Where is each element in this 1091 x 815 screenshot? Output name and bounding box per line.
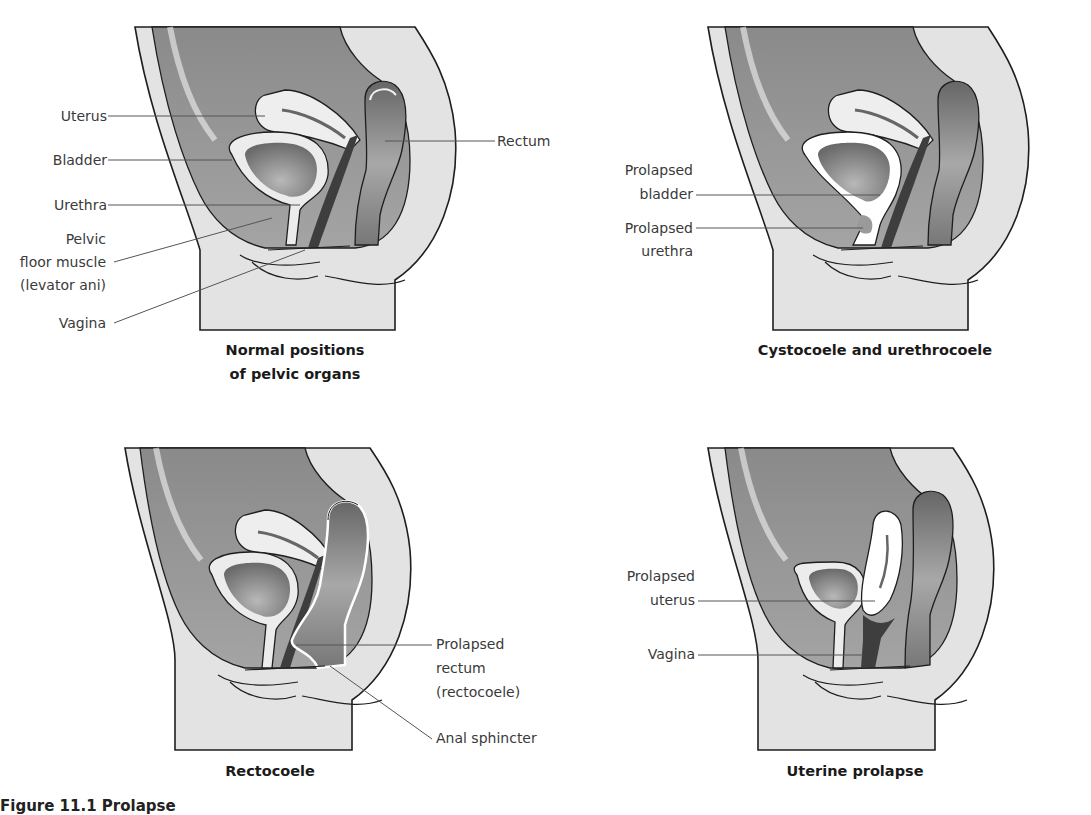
panel-uterine-prolapse: Prolapsed uterus Vagina Uterine prolapse xyxy=(545,400,1091,808)
title-normal: Normal positions of pelvic organs xyxy=(215,338,375,386)
label-prolapsed-rectum-1: Prolapsed xyxy=(436,635,504,653)
label-prolapsed-urethra-1: Prolapsed xyxy=(625,219,693,237)
label-prolapsed-bladder-2: bladder xyxy=(640,185,694,203)
label-prolapsed-rectum-3: (rectocoele) xyxy=(436,683,520,701)
label-urethra: Urethra xyxy=(54,196,107,214)
panel-rectocoele: Prolapsed rectum (rectocoele) Anal sphin… xyxy=(0,400,620,808)
title-cystocoele: Cystocoele and urethrocoele xyxy=(745,338,1005,362)
label-prolapsed-bladder-1: Prolapsed xyxy=(625,161,693,179)
label-bladder: Bladder xyxy=(53,151,107,169)
panel-normal: Uterus Bladder Urethra Pelvic floor musc… xyxy=(0,0,545,400)
pelvis-uterine-prolapse-illustration xyxy=(545,400,1091,808)
label-rectum: Rectum xyxy=(497,132,550,150)
label-prolapsed-uterus-1: Prolapsed xyxy=(627,567,695,585)
label-prolapsed-rectum-2: rectum xyxy=(436,659,486,677)
label-anal-sphincter: Anal sphincter xyxy=(436,729,537,747)
figure-caption: Figure 11.1 Prolapse xyxy=(0,797,176,815)
label-uterus: Uterus xyxy=(61,107,107,125)
label-pelvic-floor-3: (levator ani) xyxy=(20,276,106,294)
label-vagina-uterine: Vagina xyxy=(648,645,695,663)
title-rectocoele: Rectocoele xyxy=(190,759,350,783)
panel-cystocoele: Prolapsed bladder Prolapsed urethra Cyst… xyxy=(545,0,1091,400)
label-vagina: Vagina xyxy=(59,314,106,332)
label-prolapsed-uterus-2: uterus xyxy=(650,591,695,609)
title-uterine-prolapse: Uterine prolapse xyxy=(770,759,940,783)
label-prolapsed-urethra-2: urethra xyxy=(641,242,693,260)
label-pelvic-floor-2: floor muscle xyxy=(20,253,106,271)
label-pelvic-floor-1: Pelvic xyxy=(66,230,106,248)
